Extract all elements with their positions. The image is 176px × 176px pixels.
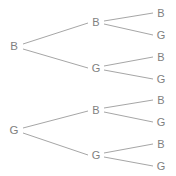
tree-node-m2: G bbox=[92, 63, 101, 74]
tree-edge bbox=[23, 111, 88, 128]
tree-diagram: BGBGBGBGBGBGBG bbox=[0, 0, 176, 176]
tree-edge bbox=[23, 49, 88, 68]
tree-edge bbox=[104, 13, 153, 21]
tree-node-r2: G bbox=[10, 125, 19, 136]
tree-edge bbox=[104, 100, 153, 108]
tree-edge bbox=[104, 70, 153, 79]
tree-edge-layer bbox=[0, 0, 176, 176]
tree-node-l5: B bbox=[157, 95, 164, 106]
tree-node-l4: G bbox=[157, 74, 166, 85]
tree-edge bbox=[104, 144, 153, 153]
tree-edge bbox=[104, 57, 153, 66]
tree-node-r1: B bbox=[10, 41, 18, 52]
tree-edge bbox=[104, 157, 153, 166]
tree-node-l1: B bbox=[157, 8, 164, 19]
tree-node-l3: B bbox=[157, 52, 164, 63]
tree-node-m1: B bbox=[92, 17, 99, 28]
tree-node-m3: B bbox=[92, 105, 99, 116]
tree-edge bbox=[104, 24, 153, 35]
tree-node-l7: B bbox=[157, 139, 164, 150]
tree-node-l2: G bbox=[157, 30, 166, 41]
tree-edge bbox=[23, 23, 88, 44]
tree-node-m4: G bbox=[92, 150, 101, 161]
tree-node-l6: G bbox=[157, 117, 166, 128]
tree-edge bbox=[23, 133, 88, 155]
tree-node-l8: G bbox=[157, 161, 166, 172]
tree-edge bbox=[104, 112, 153, 122]
